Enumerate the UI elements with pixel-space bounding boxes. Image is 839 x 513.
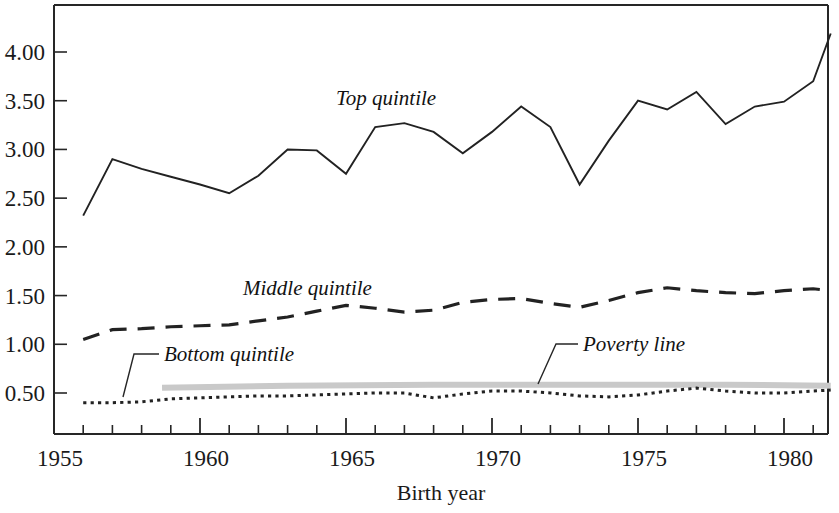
bottom-quintile-label-leader [123, 354, 159, 397]
y-tick-label: 3.50 [5, 89, 45, 114]
series-line-top-quintile [83, 33, 831, 215]
chart-figure: 0.501.001.502.002.503.003.504.00 1955196… [0, 0, 839, 513]
y-tick-label: 2.50 [5, 186, 45, 211]
y-tick-label: 3.00 [5, 137, 45, 162]
top-quintile-label: Top quintile [336, 86, 436, 110]
x-axis-title: Birth year [397, 480, 486, 505]
x-axis-tick-labels: 195519601965197019751980 [37, 446, 813, 471]
x-tick-label: 1980 [767, 446, 813, 471]
y-axis-tick-labels: 0.501.001.502.002.503.003.504.00 [5, 40, 45, 406]
plot-frame [54, 5, 828, 434]
annotation-layer: Top quintileMiddle quintileBottom quinti… [123, 86, 685, 397]
poverty-line-label-leader [538, 344, 578, 384]
series-line-poverty-line [162, 385, 831, 388]
middle-quintile-label: Middle quintile [242, 276, 372, 300]
y-tick-label: 2.00 [5, 235, 45, 260]
x-tick-label: 1965 [329, 446, 375, 471]
x-tick-label: 1975 [621, 446, 667, 471]
x-axis-ticks [54, 418, 813, 434]
line-chart-canvas: 0.501.001.502.002.503.003.504.00 1955196… [0, 0, 839, 513]
poverty-line-label: Poverty line [582, 332, 685, 356]
x-tick-label: 1970 [475, 446, 521, 471]
y-tick-label: 1.50 [5, 284, 45, 309]
y-axis-ticks [54, 52, 67, 393]
y-tick-label: 1.00 [5, 332, 45, 357]
bottom-quintile-label: Bottom quintile [164, 342, 294, 366]
x-tick-label: 1955 [37, 446, 83, 471]
y-tick-label: 0.50 [5, 381, 45, 406]
y-tick-label: 4.00 [5, 40, 45, 65]
series-line-bottom-quintile [83, 388, 831, 403]
x-tick-label: 1960 [183, 446, 229, 471]
series-line-middle-quintile [83, 288, 831, 340]
